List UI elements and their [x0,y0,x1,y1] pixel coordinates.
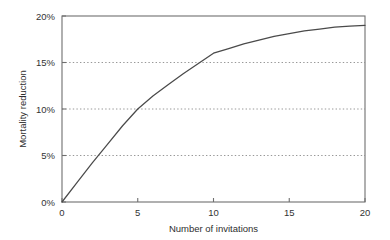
line-chart: 05101520 0%5%10%15%20% Number of invitat… [0,0,390,240]
y-tick-label: 20% [36,11,56,22]
x-tick-label: 0 [59,207,64,218]
y-tick-label: 15% [36,57,56,68]
y-axis-title: Mortality reduction [17,70,28,148]
chart-figure: 05101520 0%5%10%15%20% Number of invitat… [0,0,390,240]
chart-background [0,0,390,240]
y-tick-label: 10% [36,104,56,115]
x-tick-label: 15 [284,207,295,218]
y-tick-label: 5% [41,150,55,161]
x-axis-title: Number of invitations [169,223,258,234]
x-tick-label: 10 [208,207,219,218]
x-tick-label: 5 [135,207,140,218]
y-tick-label: 0% [41,197,55,208]
x-tick-label: 20 [360,207,371,218]
